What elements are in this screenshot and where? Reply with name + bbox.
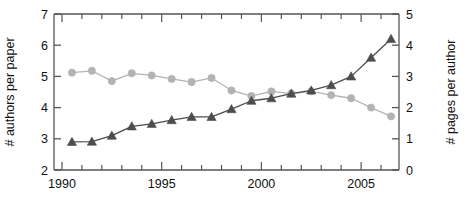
x-axis-tick-label: 1990 [48, 177, 76, 191]
data-point-marker-circle [208, 74, 215, 81]
y-axis-right-tick-label: 0 [406, 164, 413, 178]
data-point-marker-triangle [386, 34, 395, 42]
y-axis-right-tick-label: 4 [406, 39, 413, 53]
y-axis-left-title: # authors per paper [3, 37, 17, 146]
data-point-marker-circle [148, 72, 155, 79]
y-axis-left-tick-label: 4 [41, 101, 48, 115]
y-axis-left-tick-label: 6 [41, 39, 48, 53]
data-point-marker-circle [108, 77, 115, 84]
x-axis-tick-label: 2000 [247, 177, 275, 191]
x-axis-tick-label: 2005 [347, 177, 375, 191]
y-axis-right-tick-label: 3 [406, 70, 413, 84]
dual-axis-line-chart: 2345670123451990199520002005# authors pe… [0, 0, 465, 211]
y-axis-right-tick-label: 5 [406, 8, 413, 22]
x-axis-tick-label: 1995 [148, 177, 176, 191]
data-point-marker-circle [347, 95, 354, 102]
data-point-marker-triangle [227, 105, 236, 113]
y-axis-left-tick-label: 5 [41, 70, 48, 84]
y-axis-right-tick-label: 1 [406, 132, 413, 146]
y-axis-right-tick-label: 2 [406, 101, 413, 115]
data-point-marker-triangle [327, 81, 336, 89]
data-point-marker-circle [168, 75, 175, 82]
data-point-marker-circle [68, 69, 75, 76]
y-axis-left-tick-label: 2 [41, 164, 48, 178]
y-axis-right-title: # pages per author [444, 40, 458, 145]
y-axis-left-tick-label: 3 [41, 132, 48, 146]
data-point-marker-circle [128, 70, 135, 77]
data-point-marker-circle [188, 78, 195, 85]
y-axis-left-tick-label: 7 [41, 8, 48, 22]
data-point-marker-triangle [107, 131, 116, 139]
chart-figure: 2345670123451990199520002005# authors pe… [0, 0, 465, 211]
data-point-marker-circle [367, 104, 374, 111]
data-point-marker-circle [328, 91, 335, 98]
data-point-marker-circle [228, 87, 235, 94]
data-point-marker-circle [387, 113, 394, 120]
data-point-marker-circle [88, 67, 95, 74]
